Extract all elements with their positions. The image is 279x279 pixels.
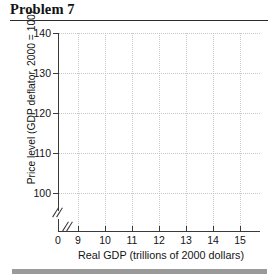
x-axis-tick-label: 14 <box>201 234 225 246</box>
x-axis-title: Real GDP (trillions of 2000 dollars) <box>58 249 264 261</box>
x-axis-tick <box>78 226 79 231</box>
y-axis-break-icon <box>52 207 64 219</box>
gridline-vertical <box>240 33 241 228</box>
footer-bar <box>12 269 267 274</box>
gridline-vertical <box>105 33 106 228</box>
x-axis-tick-label: 10 <box>93 234 117 246</box>
y-axis-tick-label: 110 <box>34 147 51 159</box>
plot-area <box>58 33 260 228</box>
y-axis-tick <box>53 153 58 154</box>
x-axis-tick-label: 11 <box>120 234 144 246</box>
x-axis-tick-label: 15 <box>228 234 252 246</box>
y-axis-line <box>58 33 59 211</box>
y-axis-tick <box>53 193 58 194</box>
x-axis-tick <box>159 226 160 231</box>
x-axis-tick-label: 9 <box>66 234 90 246</box>
x-axis-break-icon <box>63 220 75 232</box>
y-axis-tick <box>53 73 58 74</box>
gridline-vertical <box>159 33 160 228</box>
y-axis-tick <box>53 113 58 114</box>
x-axis-tick <box>132 226 133 231</box>
gridline-vertical <box>213 33 214 228</box>
x-axis-tick <box>186 226 187 231</box>
y-axis-tick <box>53 33 58 34</box>
x-axis-tick <box>213 226 214 231</box>
x-axis-tick <box>105 226 106 231</box>
chart-figure: 14013012011010009101112131415 Price leve… <box>0 0 279 279</box>
gridline-vertical <box>186 33 187 228</box>
x-axis-tick <box>240 226 241 231</box>
gridline-vertical <box>132 33 133 228</box>
x-axis-tick-label: 13 <box>174 234 198 246</box>
figure-page: Problem 7 14013012011010009101112131415 … <box>0 0 279 279</box>
gridline-vertical <box>78 33 79 228</box>
y-axis-title: Price level (GDP deflator, 2000 = 100) <box>26 0 37 198</box>
x-axis-line <box>58 231 260 232</box>
x-axis-tick-label: 12 <box>147 234 171 246</box>
